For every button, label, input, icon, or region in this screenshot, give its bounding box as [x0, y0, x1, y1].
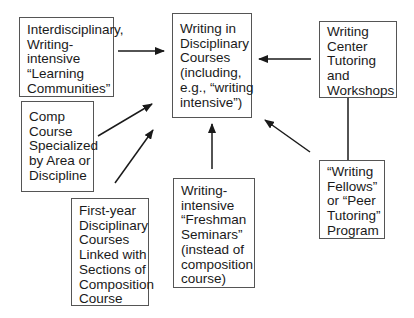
- arrow-first-year-to-center: [115, 130, 153, 183]
- node-text: Writing-: [27, 38, 113, 53]
- node-text: course): [181, 272, 254, 287]
- node-text: (including,: [180, 66, 251, 81]
- node-text: Courses: [79, 233, 148, 248]
- node-text: Seminars”: [181, 228, 254, 243]
- node-text: intensive”): [180, 96, 251, 111]
- node-text: Tutoring”: [327, 209, 384, 224]
- node-text: (instead of: [181, 243, 254, 258]
- node-text: by Area or: [29, 154, 93, 169]
- node-text: Course: [79, 292, 148, 307]
- node-text: or “Peer: [327, 194, 384, 209]
- node-text: Courses: [180, 51, 251, 66]
- node-text: Disciplinary: [180, 37, 251, 52]
- node-writing-fellows: “Writing Fellows” or “Peer Tutoring” Pro…: [319, 160, 385, 239]
- node-freshman-seminars: Writing- intensive “Freshman Seminars” (…: [173, 178, 255, 288]
- node-text: Writing in: [180, 22, 251, 37]
- node-text: Center: [327, 40, 396, 55]
- node-center-writing-in-disciplinary-courses: Writing in Disciplinary Courses (includi…: [172, 13, 252, 118]
- node-text: Composition: [79, 278, 148, 293]
- arrow-writing-fellows-to-center: [265, 120, 310, 152]
- node-comp-course: Comp Course Specialized by Area or Disci…: [21, 101, 94, 192]
- node-text: Comp: [29, 110, 93, 125]
- node-text: “Learning: [27, 67, 113, 82]
- node-text: Linked with: [79, 248, 148, 263]
- node-text: Fellows”: [327, 180, 384, 195]
- node-text: Specialized: [29, 139, 93, 154]
- node-text: e.g., “writing: [180, 81, 251, 96]
- node-first-year: First-year Disciplinary Courses Linked w…: [71, 198, 149, 306]
- node-text: Writing-: [181, 184, 254, 199]
- node-text: Course: [29, 125, 93, 140]
- node-text: Workshops: [327, 84, 396, 99]
- node-text: Disciplinary: [79, 219, 148, 234]
- node-text: composition: [181, 258, 254, 273]
- node-text: Interdisciplinary,: [27, 23, 113, 38]
- node-text: and: [327, 69, 396, 84]
- node-text: Tutoring: [327, 54, 396, 69]
- node-text: “Freshman: [181, 213, 254, 228]
- node-text: “Writing: [327, 165, 384, 180]
- node-text: Sections of: [79, 263, 148, 278]
- node-writing-center: Writing Center Tutoring and Workshops: [319, 21, 397, 98]
- node-text: intensive: [27, 52, 113, 67]
- node-text: Program: [327, 224, 384, 239]
- node-text: Communities”: [27, 82, 113, 97]
- node-text: First-year: [79, 204, 148, 219]
- node-text: Writing: [327, 25, 396, 40]
- arrow-comp-course-to-center: [98, 104, 152, 136]
- node-text: intensive: [181, 199, 254, 214]
- node-learning-communities: Interdisciplinary, Writing- intensive “L…: [19, 17, 114, 97]
- node-text: Discipline: [29, 169, 93, 184]
